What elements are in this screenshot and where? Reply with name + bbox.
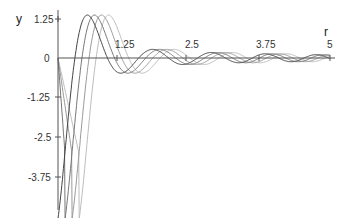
y-tick-label: 0 [44, 53, 50, 64]
chart: y r 1.25 0 -1.25 -2.5 -3.75 1.25 2.5 3.7… [0, 0, 345, 218]
y-tick-label: -3.75 [28, 172, 51, 183]
x-tick-label: 5 [327, 39, 333, 50]
y-axis-label: y [16, 12, 22, 26]
x-axis-label: r [324, 25, 328, 39]
x-tick-label: 3.75 [256, 39, 276, 50]
y-tick-label: -1.25 [27, 92, 50, 103]
x-tick-label: 1.25 [115, 39, 135, 50]
y-tick-label: -2.5 [34, 132, 52, 143]
y-tick-label: 1.25 [34, 14, 54, 25]
x-tick-label: 2.5 [185, 39, 199, 50]
